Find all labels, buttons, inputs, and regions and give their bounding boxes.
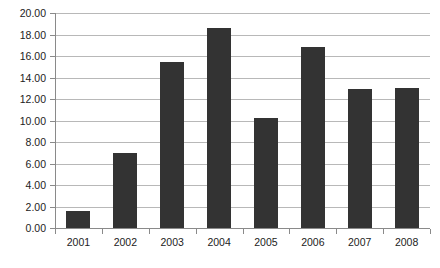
bar bbox=[66, 211, 90, 228]
bar-chart-figure: 0.002.004.006.008.0010.0012.0014.0016.00… bbox=[0, 0, 440, 268]
y-axis-tick-label: 2.00 bbox=[26, 201, 47, 213]
y-axis-tick-label: 8.00 bbox=[26, 136, 47, 148]
x-axis-tick-label: 2008 bbox=[395, 236, 419, 248]
y-axis-tick-label: 12.00 bbox=[20, 93, 46, 105]
y-axis-tick-label: 6.00 bbox=[26, 158, 47, 170]
y-axis-tick-label: 10.00 bbox=[20, 115, 46, 127]
x-axis-tick-label: 2001 bbox=[67, 236, 91, 248]
bars-group bbox=[66, 28, 419, 228]
gridlines-group bbox=[55, 14, 430, 208]
bar bbox=[113, 153, 137, 228]
x-axis-tick-label: 2002 bbox=[114, 236, 138, 248]
y-axis-tick-label: 18.00 bbox=[20, 29, 46, 41]
bar bbox=[207, 28, 231, 228]
y-axis-tick-label: 16.00 bbox=[20, 50, 46, 62]
bar bbox=[301, 47, 325, 228]
x-axis-ticks-group bbox=[56, 229, 431, 234]
bar bbox=[160, 62, 184, 228]
x-axis-tick-label: 2007 bbox=[348, 236, 372, 248]
y-axis-tick-label: 14.00 bbox=[20, 72, 46, 84]
x-axis-tick-label: 2003 bbox=[161, 236, 185, 248]
x-axis-tick-label: 2004 bbox=[207, 236, 231, 248]
x-axis-labels-group: 20012002200320042005200620072008 bbox=[67, 236, 419, 248]
y-axis-tick-label: 0.00 bbox=[26, 222, 47, 234]
x-axis-tick-label: 2006 bbox=[301, 236, 325, 248]
y-axis-tick-label: 4.00 bbox=[26, 179, 47, 191]
y-axis-labels-group: 0.002.004.006.008.0010.0012.0014.0016.00… bbox=[20, 7, 46, 234]
chart-canvas: 0.002.004.006.008.0010.0012.0014.0016.00… bbox=[0, 0, 440, 268]
bar bbox=[395, 88, 419, 228]
bar bbox=[254, 118, 278, 228]
bar bbox=[348, 89, 372, 228]
y-axis-ticks-group bbox=[50, 14, 55, 229]
y-axis-tick-label: 20.00 bbox=[20, 7, 46, 19]
x-axis-tick-label: 2005 bbox=[254, 236, 278, 248]
